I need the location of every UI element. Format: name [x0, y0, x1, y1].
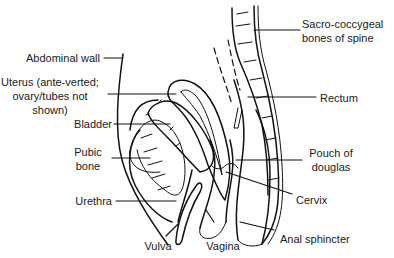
label-urethra: Urethra [50, 194, 112, 208]
label-uterus: Uterus (ante-verted; ovary/tubes not sho… [0, 75, 108, 117]
leader-lines [104, 30, 316, 236]
uterus-shape [168, 80, 230, 200]
label-pouch-line2: douglas [306, 160, 356, 174]
leader-anal-sphincter [240, 222, 274, 230]
label-vulva: Vulva [138, 239, 178, 253]
label-uterus-line2: ovary/tubes not [0, 89, 108, 103]
label-uterus-line1: Uterus (ante-verted; [0, 75, 108, 89]
label-sacro-line1: Sacro-coccygeal [302, 17, 383, 31]
label-sacro-line2: bones of spine [302, 31, 383, 45]
pubic-bone-shape [130, 100, 192, 222]
label-anal-sphincter: Anal sphincter [280, 232, 350, 246]
label-pouch-of-douglas: Pouch of douglas [306, 146, 356, 174]
sacrum-shape [232, 6, 283, 244]
label-pubic-line2: bone [66, 159, 110, 173]
label-bladder: Bladder [50, 117, 112, 131]
label-uterus-line3: shown) [0, 103, 108, 117]
label-abdominal-wall: Abdominal wall [4, 51, 100, 65]
label-pubic-line1: Pubic [66, 145, 110, 159]
label-pouch-line1: Pouch of [306, 146, 356, 160]
label-cervix: Cervix [296, 193, 327, 207]
leader-vagina [206, 210, 214, 222]
label-rectum: Rectum [320, 91, 358, 105]
rectum-shape [234, 80, 270, 246]
label-sacro-coccygeal: Sacro-coccygeal bones of spine [302, 17, 383, 45]
cervix-shape [212, 164, 238, 169]
label-vagina: Vagina [198, 239, 248, 253]
label-pubic-bone: Pubic bone [66, 145, 110, 173]
